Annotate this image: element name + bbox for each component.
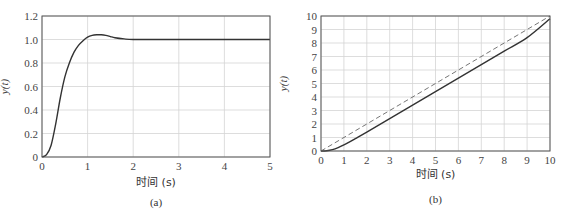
y-tick-label: 0.6	[24, 81, 38, 93]
y-tick-label: 4	[312, 91, 318, 103]
x-tick-label: 0	[39, 160, 45, 172]
chart-a-step-response: 01234500.20.40.60.81.01.2时间 (s)y(t)(a)	[0, 10, 273, 209]
y-tick-label: 8	[312, 37, 318, 49]
y-tick-label: 0	[33, 151, 39, 163]
grid-lines	[42, 16, 270, 157]
figure-canvas: 01234500.20.40.60.81.01.2时间 (s)y(t)(a) 0…	[0, 0, 561, 216]
y-tick-label: 1.2	[24, 10, 38, 22]
y-tick-label: 1	[312, 132, 318, 144]
y-tick-label: 10	[306, 10, 318, 22]
x-tick-label: 0	[318, 154, 324, 166]
x-tick-label: 5	[433, 154, 439, 166]
x-tick-label: 4	[222, 160, 228, 172]
y-axis-label: y(t)	[0, 79, 11, 96]
x-tick-label: 3	[176, 160, 182, 172]
y-tick-label: 1.0	[24, 34, 38, 46]
y-tick-label: 2	[312, 118, 318, 130]
y-tick-label: 5	[312, 78, 318, 90]
x-tick-label: 7	[479, 154, 485, 166]
series-step-response-line	[42, 35, 270, 157]
y-tick-label: 3	[312, 105, 318, 117]
x-tick-label: 3	[387, 154, 393, 166]
x-tick-label: 5	[267, 160, 273, 172]
y-tick-label: 6	[312, 64, 318, 76]
x-tick-label: 2	[364, 154, 370, 166]
x-tick-label: 8	[501, 154, 507, 166]
x-tick-label: 9	[524, 154, 530, 166]
y-tick-label: 7	[312, 51, 318, 63]
x-tick-label: 1	[341, 154, 347, 166]
x-tick-label: 6	[456, 154, 462, 166]
y-tick-label: 0	[312, 145, 318, 157]
x-tick-label: 4	[410, 154, 416, 166]
y-tick-label: 0.8	[24, 57, 38, 69]
x-tick-label: 1	[85, 160, 91, 172]
figure-caption: (b)	[429, 193, 442, 206]
y-axis-label: y(t)	[277, 76, 290, 93]
x-tick-label: 2	[130, 160, 136, 172]
y-tick-label: 0.2	[24, 128, 38, 140]
chart-b-ramp-response: 012345678910012345678910时间 (s)y(t)(b)	[277, 10, 556, 206]
figure-caption: (a)	[150, 196, 163, 209]
x-axis-label: 时间 (s)	[416, 168, 456, 181]
x-axis-label: 时间 (s)	[136, 176, 176, 189]
y-tick-label: 9	[312, 24, 318, 36]
x-tick-label: 10	[545, 154, 557, 166]
y-tick-label: 0.4	[24, 104, 38, 116]
